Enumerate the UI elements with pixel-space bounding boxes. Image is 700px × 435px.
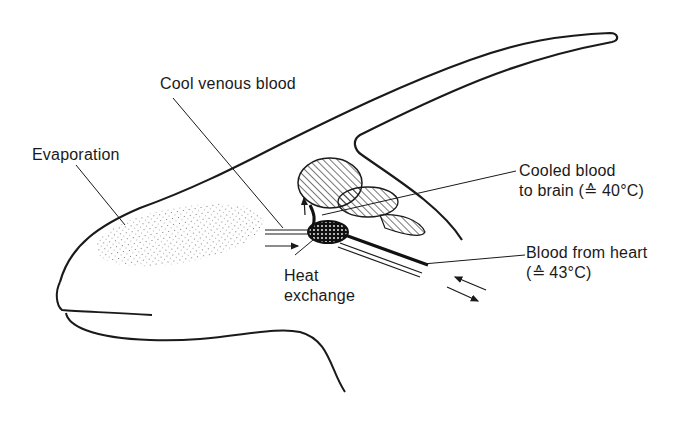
label-line-2: to brain (≙ 40°C) xyxy=(519,181,644,201)
leader-evaporation xyxy=(76,165,125,225)
head-diagram xyxy=(0,0,700,435)
throat-outline xyxy=(66,313,345,392)
label-cooled-blood: Cooled blood to brain (≙ 40°C) xyxy=(519,161,644,201)
label-heat-exchange: Heat exchange xyxy=(284,266,355,306)
label-line-1: Blood from heart xyxy=(526,243,647,263)
leader-blood-from-heart xyxy=(423,255,525,264)
artery-to-brain xyxy=(310,205,314,228)
brain-stem xyxy=(380,215,425,236)
label-line-2: exchange xyxy=(284,286,355,306)
label-line-2: (≙ 43°C) xyxy=(526,263,647,283)
up-arrow xyxy=(304,198,305,215)
label-text: Evaporation xyxy=(32,145,120,165)
label-blood-from-heart: Blood from heart (≙ 43°C) xyxy=(526,243,647,283)
brain-lobe-middle xyxy=(338,187,398,217)
label-line-1: Heat xyxy=(284,266,355,286)
label-evaporation: Evaporation xyxy=(32,145,120,165)
label-line-1: Cooled blood xyxy=(519,161,644,181)
evaporation-area xyxy=(91,193,268,278)
label-cool-venous-blood: Cool venous blood xyxy=(160,74,296,94)
snout-outline xyxy=(57,282,152,315)
leader-heat-exchange xyxy=(295,240,313,255)
arrow-away-from-head xyxy=(447,287,478,301)
arrow-toward-head xyxy=(455,277,486,290)
label-text: Cool venous blood xyxy=(160,74,296,94)
